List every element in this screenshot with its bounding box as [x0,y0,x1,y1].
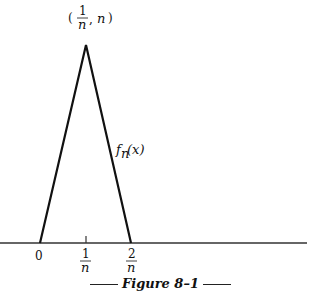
svg-text:1: 1 [82,247,90,261]
triangle-function-diagram: ( 1 n , n ) f n (x) 0 1 n 2 n [0,0,321,302]
curve-label: f n (x) [115,142,144,161]
svg-text:1: 1 [79,4,87,18]
svg-text:): ) [108,11,113,25]
svg-text:n: n [97,11,105,26]
figure-caption: Figure 8–1 [0,276,321,291]
svg-text:(: ( [68,11,73,25]
svg-text:n: n [78,17,86,32]
caption-text: Figure 8–1 [122,276,199,291]
svg-text:(x): (x) [127,142,144,157]
svg-text:,: , [89,12,93,26]
svg-text:n: n [127,260,135,275]
tick-label-1-over-n: 1 n [80,247,91,275]
svg-text:2: 2 [128,247,136,261]
tick-label-0: 0 [35,249,43,263]
peak-label: ( 1 n , n ) [68,4,113,32]
svg-text:n: n [81,260,89,275]
tick-label-2-over-n: 2 n [126,247,137,275]
